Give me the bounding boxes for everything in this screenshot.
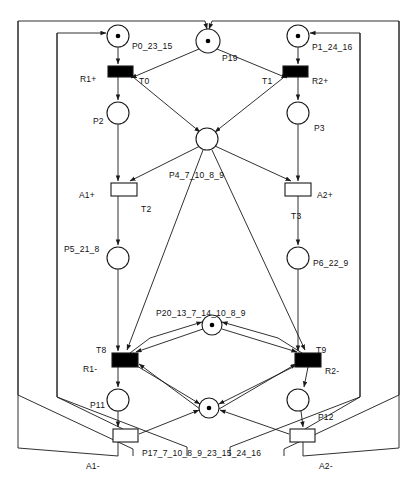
transition-action-t3: A2+ [317,190,333,200]
arc-t9-to-p12 [304,367,308,387]
arc-p19-to-t0 [131,49,199,78]
petri-net-canvas [0,0,416,481]
place-label-p0: P0_23_15 [132,41,172,51]
token-dot [296,34,301,39]
place-label-p2: P2 [93,116,104,126]
arc-t1-to-p4 [215,78,283,132]
place-circle [287,389,309,411]
transition-label-t8: T8 [96,345,106,355]
transition-t8[interactable] [112,353,138,367]
transition-action-t0: R1+ [80,74,96,84]
place-p11[interactable] [107,389,129,411]
place-p17[interactable] [199,398,219,418]
place-p4[interactable] [196,128,218,150]
place-label-p20: P20_13_7_14_10_8_9 [156,308,246,318]
place-p6[interactable] [287,247,309,269]
transition-t0[interactable] [108,66,133,77]
place-label-p19: P19 [222,53,238,63]
place-label-p4: P4_7_10_8_9 [169,170,224,180]
place-circle [107,389,129,411]
place-circle [287,247,309,269]
place-circle [287,102,309,124]
place-label-p17: P17_7_10_8_9_23_15_24_16 [142,448,261,458]
transition-ta2m[interactable] [290,429,315,442]
transition-bar-filled [283,66,308,77]
token-dot [207,406,212,411]
transition-label-t3: T3 [291,211,301,221]
transition-t2[interactable] [111,183,137,196]
transition-bar-filled [108,66,133,77]
transition-label-t2: T2 [141,204,151,214]
token-dot [210,323,215,328]
arc-t9-to-p20 [222,322,302,353]
transition-bar-empty [285,183,311,196]
feedback-loop-wires [18,21,399,456]
place-label-p6: P6_22_9 [313,258,348,268]
place-p5[interactable] [107,247,129,269]
transition-action-t8: R1- [83,364,97,374]
arc-p17-to-t9 [219,364,296,409]
transition-label-ta2m: A2- [319,461,333,471]
transition-bar-filled [112,353,138,367]
place-p20[interactable] [202,315,222,335]
transition-t9[interactable] [295,353,321,367]
transition-action-t9: R2- [325,366,339,376]
arc-t8-to-p17 [137,366,200,404]
place-p3[interactable] [287,102,309,124]
place-label-p12: P12 [318,412,334,422]
transition-action-t1: R2+ [312,76,328,86]
token-dot [116,34,121,39]
place-p0[interactable] [107,25,129,47]
arc-group [18,21,399,456]
arc-p17-to-t8 [139,364,200,409]
place-label-p1: P1_24_16 [312,42,352,52]
place-circle [107,102,129,124]
transition-bar-empty [290,429,315,442]
transition-bar-empty [113,429,138,442]
transition-ta1m[interactable] [113,429,138,442]
place-label-p3: P3 [314,123,325,133]
transition-label-t0: T0 [139,76,149,86]
place-p2[interactable] [107,102,129,124]
transition-t1[interactable] [283,66,308,77]
transition-bar-filled [295,353,321,367]
arc-t8-to-p20 [130,322,202,353]
place-label-p5: P5_21_8 [64,244,99,254]
petri-net-diagram: P0_23_15P19P1_24_16P2P3P4_7_10_8_9P5_21_… [0,0,416,481]
place-label-p11: P11 [90,400,105,410]
arc-p4-to-t8 [127,150,203,350]
transition-label-ta1m: A1- [86,461,100,471]
arc-ta2m-to-p17 [220,410,289,434]
transition-label-t9: T9 [316,345,326,355]
transition-action-t2: A1+ [79,190,95,200]
place-p1[interactable] [287,25,309,47]
arc-p4-to-t3 [215,146,291,181]
place-p19[interactable] [196,29,220,53]
transition-bar-empty [111,183,137,196]
place-circle [196,128,218,150]
token-dot [206,39,211,44]
arc-ta1m-to-p17 [139,410,199,434]
transition-t3[interactable] [285,183,311,196]
place-circle [107,247,129,269]
transition-label-t1: T1 [262,76,272,86]
place-p12[interactable] [287,389,309,411]
